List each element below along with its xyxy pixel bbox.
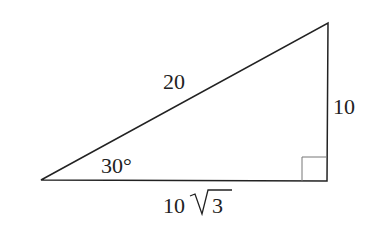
opposite-side-label: 10 [333, 96, 355, 118]
triangle-figure [0, 0, 385, 232]
hypotenuse-label: 20 [163, 71, 185, 93]
adjacent-side-label-coefficient: 10 [163, 195, 185, 217]
triangle [41, 23, 328, 181]
adjacent-side-label-radicand: 3 [212, 195, 223, 217]
sqrt-symbol [190, 190, 232, 214]
angle-label: 30° [101, 155, 132, 177]
right-angle-marker [302, 157, 327, 181]
